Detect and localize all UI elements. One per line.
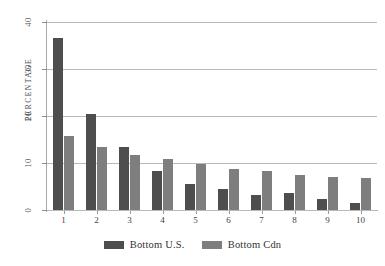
y-tick-label: 20	[18, 111, 38, 121]
bar-chart: PERCENTAGE 010203040 12345678910 Bottom …	[0, 0, 385, 266]
bar	[86, 114, 96, 210]
x-tick-mark	[295, 211, 296, 214]
bar	[361, 178, 371, 210]
y-tick-label: 10	[18, 158, 38, 168]
x-tick-mark	[64, 211, 65, 214]
x-tick-mark	[163, 211, 164, 214]
x-tick-label: 1	[52, 215, 76, 225]
y-tick-label: 40	[18, 17, 38, 27]
bar	[196, 164, 206, 210]
bar	[185, 184, 195, 210]
bar	[295, 175, 305, 210]
bar	[152, 171, 162, 210]
chart-legend: Bottom U.S.Bottom Cdn	[0, 239, 385, 250]
chart-title	[0, 0, 385, 7]
legend-item[interactable]: Bottom Cdn	[202, 239, 282, 250]
bar	[328, 177, 338, 210]
gridline	[47, 22, 377, 23]
bar	[229, 169, 239, 210]
x-tick-label: 6	[217, 215, 241, 225]
bar	[119, 147, 129, 210]
x-tick-mark	[361, 211, 362, 214]
x-tick-mark	[328, 211, 329, 214]
x-tick-label: 5	[184, 215, 208, 225]
legend-item[interactable]: Bottom U.S.	[104, 239, 185, 250]
plot-area	[47, 22, 377, 210]
bar	[218, 189, 228, 210]
bar	[64, 136, 74, 210]
legend-swatch-icon	[202, 241, 222, 249]
legend-swatch-icon	[104, 241, 124, 249]
gridline	[47, 69, 377, 70]
legend-label: Bottom U.S.	[130, 239, 185, 250]
x-tick-mark	[262, 211, 263, 214]
x-tick-mark	[196, 211, 197, 214]
bar	[130, 155, 140, 210]
x-tick-mark	[130, 211, 131, 214]
legend-label: Bottom Cdn	[228, 239, 282, 250]
bar	[163, 159, 173, 210]
x-tick-mark	[229, 211, 230, 214]
gridline	[47, 116, 377, 117]
y-tick-label: 30	[18, 64, 38, 74]
y-tick-label: 0	[18, 205, 38, 215]
bar	[350, 203, 360, 210]
bar	[262, 171, 272, 210]
x-tick-label: 3	[118, 215, 142, 225]
bar	[284, 193, 294, 210]
x-tick-label: 7	[250, 215, 274, 225]
x-tick-label: 8	[283, 215, 307, 225]
bar	[97, 147, 107, 210]
bar	[251, 195, 261, 210]
x-tick-label: 4	[151, 215, 175, 225]
bar	[53, 38, 63, 210]
x-tick-mark	[97, 211, 98, 214]
x-tick-label: 9	[316, 215, 340, 225]
bar	[317, 199, 327, 210]
x-tick-label: 2	[85, 215, 109, 225]
x-tick-label: 10	[349, 215, 373, 225]
